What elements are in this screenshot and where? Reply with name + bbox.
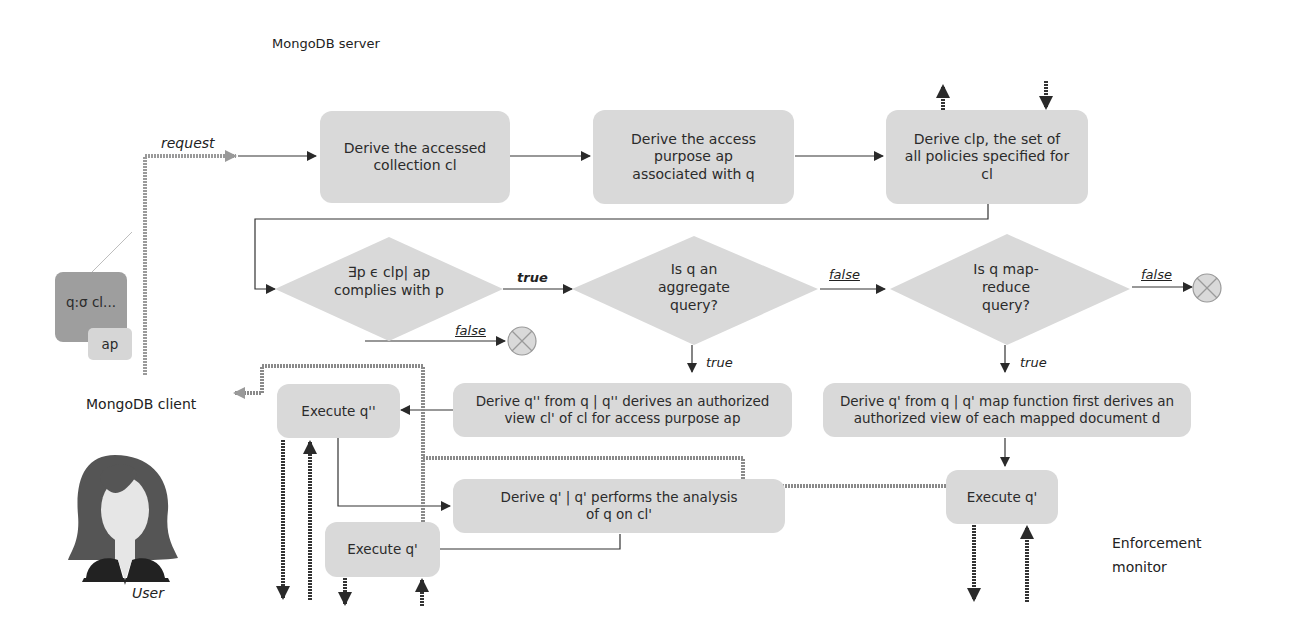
edge-aggregate-false: false [829, 267, 860, 282]
monitor-label-line1: Enforcement [1112, 535, 1202, 551]
decision-comply: ∃p ϵ clp| ap complies with p [334, 263, 444, 299]
request-path [145, 156, 236, 375]
node-derive-q1-map: Derive q' from q | q' map function first… [823, 383, 1191, 437]
node-execute-q1-left: Execute q' [325, 522, 440, 577]
client-purpose-text: ap [102, 336, 119, 353]
node-derive-purpose: Derive the access purpose ap associated … [593, 110, 794, 204]
decision-aggregate: Is q an aggregate query? [652, 260, 736, 315]
node-execute-q1-right: Execute q' [946, 470, 1058, 524]
edge-mapreduce-false: false [1141, 267, 1172, 282]
user-avatar [68, 455, 178, 585]
diagram-canvas: MongoDB server request MongoDB client Us… [0, 0, 1289, 644]
edge-aggregate-true: true [706, 355, 733, 370]
client-purpose-box: ap [88, 328, 132, 360]
decision-mapreduce: Is q map-reduce query? [960, 260, 1052, 315]
node-derive-collection: Derive the accessed collection cl [320, 111, 510, 203]
node-derive-q2: Derive q'' from q | q'' derives an autho… [453, 383, 792, 437]
client-link-line [92, 232, 132, 272]
edge-comply-true: true [517, 270, 548, 285]
node-derive-q1-analysis: Derive q' | q' performs the analysis of … [453, 479, 785, 533]
diagram-connectors [0, 0, 1289, 644]
node-derive-clp: Derive clp, the set of all policies spec… [886, 110, 1088, 204]
edge-comply-false: false [455, 323, 486, 338]
client-label: MongoDB client [86, 396, 196, 412]
server-label: MongoDB server [272, 36, 380, 51]
node-execute-q2: Execute q'' [277, 384, 400, 438]
user-label: User [132, 585, 164, 601]
edge-mapreduce-true: true [1020, 355, 1047, 370]
monitor-label-line2: monitor [1112, 559, 1167, 575]
request-label: request [161, 135, 215, 151]
client-query-text: q:σ cl... [66, 294, 116, 311]
